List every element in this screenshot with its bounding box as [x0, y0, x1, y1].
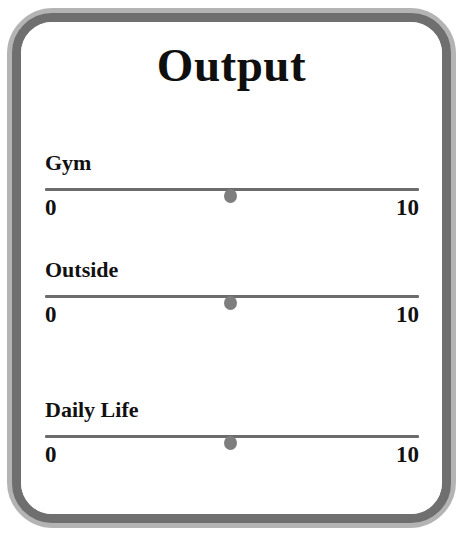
card-content: Output Gym 0 10 Outside	[21, 22, 442, 514]
slider-track-outside[interactable]	[45, 295, 419, 300]
slider-min-label-outside: 0	[45, 303, 57, 326]
slider-row-gym: Gym 0 10	[45, 152, 419, 230]
slider-list: Gym 0 10 Outside 0 10	[21, 22, 442, 514]
slider-scale-outside: 0 10	[45, 303, 419, 333]
slider-track-gym[interactable]	[45, 188, 419, 193]
slider-label-daily-life: Daily Life	[45, 399, 139, 421]
slider-row-daily-life: Daily Life 0 10	[45, 399, 419, 477]
slider-label-outside: Outside	[45, 259, 118, 281]
slider-row-outside: Outside 0 10	[45, 259, 419, 337]
slider-max-label-outside: 10	[396, 303, 419, 326]
slider-scale-gym: 0 10	[45, 196, 419, 226]
slider-track-daily-life[interactable]	[45, 435, 419, 440]
output-card-screen: Output Gym 0 10 Outside	[0, 0, 463, 536]
slider-min-label-daily-life: 0	[45, 443, 57, 466]
slider-max-label-gym: 10	[396, 196, 419, 219]
slider-scale-daily-life: 0 10	[45, 443, 419, 473]
slider-min-label-gym: 0	[45, 196, 57, 219]
slider-label-gym: Gym	[45, 152, 91, 174]
slider-max-label-daily-life: 10	[396, 443, 419, 466]
